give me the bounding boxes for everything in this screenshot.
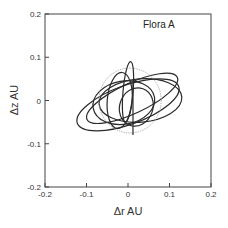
trajectory-ellipse	[71, 68, 186, 141]
trajectory-curves	[71, 61, 186, 141]
y-tick-label: -0.2	[27, 183, 41, 192]
x-tick-label: 0	[126, 190, 131, 199]
plot-frame	[45, 14, 211, 187]
x-tick-label: 0.2	[205, 190, 217, 199]
x-axis-label: Δr AU	[114, 205, 143, 217]
chart: -0.2-0.100.10.2 0.20.10-0.1-0.2 Flora A …	[0, 0, 228, 228]
x-tick-label: 0.1	[164, 190, 176, 199]
x-tick-label: -0.1	[80, 190, 94, 199]
chart-title: Flora A	[143, 19, 175, 30]
y-axis-label: Δz AU	[8, 85, 20, 116]
y-tick-label: 0.2	[30, 10, 42, 19]
x-axis-ticks: -0.2-0.100.10.2	[38, 183, 217, 199]
y-tick-label: -0.1	[27, 140, 41, 149]
y-tick-label: 0.1	[30, 53, 42, 62]
y-axis-ticks: 0.20.10-0.1-0.2	[27, 10, 49, 192]
y-tick-label: 0	[37, 97, 42, 106]
